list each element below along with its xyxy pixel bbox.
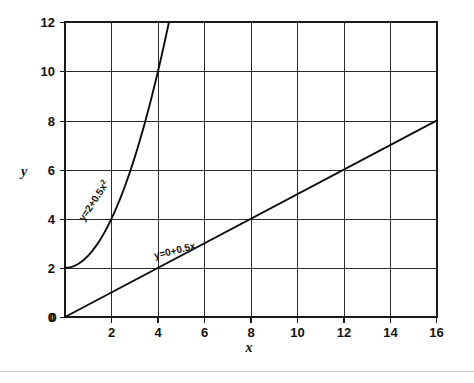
y-tick-label-12: 12 bbox=[41, 15, 55, 30]
x-axis-title: x bbox=[245, 340, 253, 355]
y-tick-label-4: 4 bbox=[48, 212, 56, 227]
x-tick-label-16: 16 bbox=[429, 325, 443, 340]
x-tick-label-0: 0 bbox=[49, 310, 56, 325]
chart-svg: 0 2 4 6 8 10 12 0 2 4 6 8 10 12 14 16 y … bbox=[0, 0, 474, 383]
x-tick-label-8: 8 bbox=[247, 325, 254, 340]
y-tick-label-8: 8 bbox=[48, 114, 55, 129]
x-tick-label-6: 6 bbox=[201, 325, 208, 340]
x-tick-label-4: 4 bbox=[154, 325, 162, 340]
x-tick-label-2: 2 bbox=[108, 325, 115, 340]
x-tick-label-14: 14 bbox=[383, 325, 398, 340]
y-axis-title: y bbox=[19, 164, 28, 179]
x-tick-label-10: 10 bbox=[290, 325, 304, 340]
x-tick-label-12: 12 bbox=[337, 325, 351, 340]
y-tick-label-2: 2 bbox=[48, 261, 55, 276]
y-tick-label-6: 6 bbox=[48, 163, 55, 178]
chart-background bbox=[0, 0, 474, 383]
chart-figure: 0 2 4 6 8 10 12 0 2 4 6 8 10 12 14 16 y … bbox=[0, 0, 474, 383]
y-tick-label-10: 10 bbox=[41, 64, 55, 79]
